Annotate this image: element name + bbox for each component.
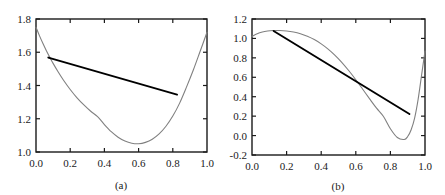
x-tick-label: 0.2: [63, 157, 77, 169]
x-tick-label: 0.0: [29, 157, 43, 169]
chart-panel-b: 0.00.20.40.60.81.0 -0.20.00.20.40.60.81.…: [222, 0, 445, 195]
x-tick-label: 0.2: [280, 160, 294, 172]
x-tick-label: 0.4: [98, 157, 112, 169]
axes-frame: [36, 19, 207, 152]
y-tick-label: 1.6: [17, 46, 31, 58]
x-tick-label: 0.6: [349, 160, 363, 172]
y-tick-label: 0.4: [233, 91, 247, 103]
figure-container: 0.00.20.40.60.81.0 1.01.21.41.61.8 (a) 0…: [0, 0, 445, 195]
y-tick-labels-b: -0.20.00.20.40.60.81.01.2: [230, 13, 248, 161]
y-tick-labels-a: 1.01.21.41.61.8: [17, 13, 31, 158]
x-tick-labels-b: 0.00.20.40.60.81.0: [245, 160, 432, 172]
x-tick-label: 0.8: [166, 157, 180, 169]
y-tick-label: 0.6: [233, 71, 247, 83]
x-tick-label: 1.0: [200, 157, 214, 169]
plot-frame-b: [252, 19, 425, 155]
y-tick-label: 1.2: [233, 13, 247, 25]
y-tick-label: 1.2: [17, 113, 31, 125]
chart-panel-a: 0.00.20.40.60.81.0 1.01.21.41.61.8 (a): [0, 0, 222, 195]
x-tick-label: 1.0: [418, 160, 432, 172]
x-tick-labels-a: 0.00.20.40.60.81.0: [29, 157, 214, 169]
panel-caption-b: (b): [332, 180, 345, 193]
plot-svg-b: 0.00.20.40.60.81.0 -0.20.00.20.40.60.81.…: [222, 0, 445, 195]
y-tick-label: 1.4: [17, 80, 31, 92]
y-tick-label: 1.0: [233, 32, 247, 44]
x-tick-label: 0.6: [132, 157, 146, 169]
x-tick-label: 0.8: [384, 160, 398, 172]
x-tick-label: 0.4: [314, 160, 328, 172]
y-tick-label: 0.0: [233, 130, 247, 142]
y-tick-label: 1.8: [17, 13, 31, 25]
y-tick-label: 0.8: [233, 52, 247, 64]
axes-frame: [252, 19, 425, 155]
y-tick-label: 0.2: [233, 110, 247, 122]
plot-svg-a: 0.00.20.40.60.81.0 1.01.21.41.61.8 (a): [0, 0, 222, 195]
panel-caption-a: (a): [115, 179, 128, 192]
y-tick-label: -0.2: [230, 149, 247, 161]
plot-frame-a: [36, 19, 207, 152]
x-tick-label: 0.0: [245, 160, 259, 172]
y-tick-label: 1.0: [17, 146, 31, 158]
